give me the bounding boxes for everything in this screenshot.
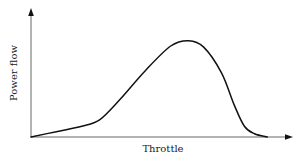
y-axis-label: Power flow — [8, 45, 19, 101]
y-axis-arrow-icon — [28, 8, 34, 16]
power-flow-chart — [0, 0, 304, 159]
x-axis-arrow-icon — [285, 134, 293, 140]
x-axis-label: Throttle — [0, 143, 304, 154]
data-curve — [31, 41, 267, 137]
